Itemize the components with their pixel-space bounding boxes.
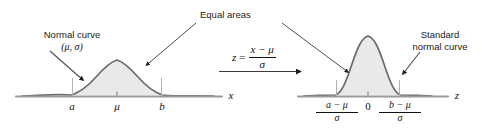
right-tick-b-denominator: σ — [379, 113, 421, 124]
right-tick-a-denominator: σ — [316, 113, 358, 124]
z-formula-fraction: x − μ σ — [249, 44, 276, 70]
left-tick-label-mu: μ — [107, 100, 127, 112]
equal-areas-leader-left — [146, 23, 196, 66]
z-formula-symbol: z — [232, 51, 236, 63]
right-shaded-area — [336, 36, 400, 95]
left-tick-label-a: a — [62, 100, 82, 112]
left-shaded-area — [72, 60, 162, 95]
equal-areas-label: Equal areas — [200, 9, 251, 21]
standard-normal-curve-label: Standard normal curve — [398, 29, 482, 52]
z-score-formula: z = x − μ σ — [232, 44, 276, 70]
right-tick-label-a-standardized: a − μ σ — [316, 100, 358, 123]
standard-curve-label-line2: normal curve — [398, 41, 482, 53]
left-plot-group — [16, 60, 222, 97]
normal-curve-params: (μ, σ) — [24, 41, 120, 53]
normal-curve-label-line1: Normal curve — [24, 29, 120, 41]
z-formula-numerator: x − μ — [249, 44, 276, 56]
normal-curve-leader-arrow — [50, 51, 84, 81]
z-formula-denominator: σ — [249, 59, 276, 71]
z-formula-equals: = — [239, 51, 245, 63]
right-axis-label-z: z — [450, 89, 464, 101]
right-tick-label-zero: 0 — [359, 100, 377, 112]
equal-areas-leader-right — [282, 23, 349, 73]
right-tick-label-b-standardized: b − μ σ — [379, 100, 421, 123]
standard-curve-label-line1: Standard — [398, 29, 482, 41]
standard-curve-leader-arrow — [403, 52, 421, 75]
normal-curve-standardization-figure: Normal curve (μ, σ) Equal areas Standard… — [0, 0, 482, 133]
right-tick-a-numerator: a − μ — [316, 100, 358, 111]
right-tick-b-numerator: b − μ — [379, 100, 421, 111]
normal-curve-label: Normal curve (μ, σ) — [24, 29, 120, 53]
left-axis-label-x: x — [224, 89, 238, 101]
left-tick-label-b: b — [152, 100, 172, 112]
